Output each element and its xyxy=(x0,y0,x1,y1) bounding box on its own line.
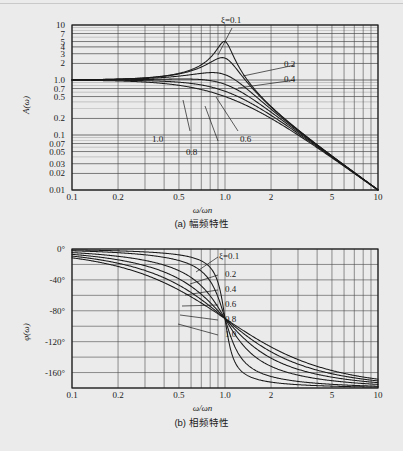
panel-b-curve-label: 0.2 xyxy=(225,270,236,279)
figure-page: A(ω) 10754321.00.70.50.20.10.070.050.030… xyxy=(0,0,403,451)
panel-a-curve-label: ξ=0.1 xyxy=(221,16,241,25)
panel-b-curve-label: ξ=0.1 xyxy=(219,252,239,261)
panel-b-phase: φ(ω) 0°-40°-80°-120°-160° 0.10.20.51.025… xyxy=(0,232,403,451)
panel-b-curve-label: 0.6 xyxy=(225,300,236,309)
panel-a-curve-label: 1.0 xyxy=(152,135,163,144)
panel-a-curve-label: 0.2 xyxy=(284,60,295,69)
panel-a-curve-labels: ξ=0.10.20.40.60.81.0 xyxy=(0,0,403,230)
panel-a-caption: (a) 幅频特性 xyxy=(0,218,403,229)
panel-b-x-axis-title: ω/ωn xyxy=(175,403,230,413)
panel-b-curve-label: 0.8 xyxy=(225,315,236,324)
panel-b-caption: (b) 相频特性 xyxy=(0,417,403,428)
panel-b-x-axis-title-text: ω/ωn xyxy=(193,403,213,413)
panel-a-x-axis-title: ω/ωn xyxy=(175,205,230,215)
panel-b-curve-label: 0.4 xyxy=(225,285,236,294)
panel-b-curve-label: 1.0 xyxy=(225,330,236,339)
panel-a-amplitude: A(ω) 10754321.00.70.50.20.10.070.050.030… xyxy=(0,0,403,230)
panel-a-curve-label: 0.8 xyxy=(186,148,197,157)
panel-a-curve-label: 0.4 xyxy=(284,75,295,84)
panel-a-x-axis-title-text: ω/ωn xyxy=(193,205,213,215)
panel-a-curve-label: 0.6 xyxy=(240,135,251,144)
